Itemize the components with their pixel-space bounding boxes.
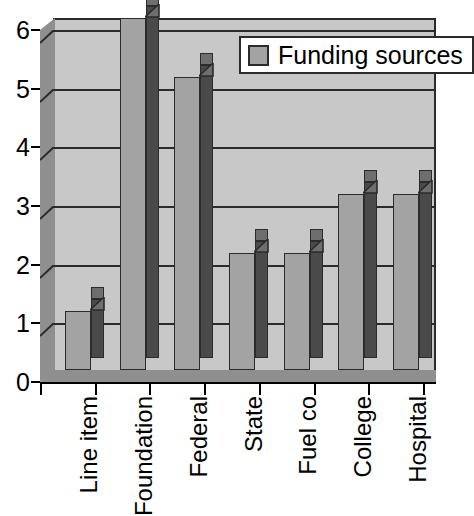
y-axis-tick-mark [31, 264, 40, 266]
bar-hospital[interactable] [393, 194, 419, 370]
bar-front-face [174, 77, 200, 370]
y-axis-tick-label: 5 [16, 76, 30, 101]
y-axis-tick-label: 0 [16, 370, 30, 395]
y-axis-tick-mark [31, 146, 40, 148]
bar-side-face [364, 182, 377, 358]
x-axis-category-label: Federal [187, 396, 211, 477]
bar-side-face [200, 65, 213, 358]
y-axis-tick-label: 4 [16, 135, 30, 160]
bar-fuel-co[interactable] [284, 253, 310, 370]
y-axis-tick-mark [31, 205, 40, 207]
legend-label: Funding sources [278, 42, 463, 68]
x-axis-category-label: Fuel co [296, 396, 320, 475]
bar-top-bevel [363, 180, 378, 194]
bar-line-item[interactable] [65, 311, 91, 370]
x-axis-tick-mark [423, 384, 425, 395]
y-axis-tick-label: 2 [16, 252, 30, 277]
bar-side-face [255, 241, 268, 358]
bar-front-face [284, 253, 310, 370]
bar-college[interactable] [338, 194, 364, 370]
x-axis-labels: Line itemFoundationFederalStateFuel coCo… [40, 396, 436, 510]
y-axis-tick-label: 3 [16, 194, 30, 219]
bar-top-bevel [418, 180, 433, 194]
x-axis-tick-mark [40, 384, 42, 395]
x-axis-category-label: College [351, 396, 375, 477]
bar-top-bevel [145, 4, 160, 18]
x-axis-tick-mark [204, 384, 206, 395]
bar-front-face [229, 253, 255, 370]
bar-front-face [393, 194, 419, 370]
y-axis: 0123456 [0, 0, 40, 510]
y-axis-tick-mark [31, 88, 40, 90]
x-axis-line [40, 382, 436, 384]
x-axis-category-label: Line item [77, 396, 101, 493]
y-axis-tick-mark [31, 29, 40, 31]
x-axis-category-label: Foundation [132, 396, 156, 516]
x-axis-category-label: State [242, 396, 266, 452]
bar-foundation[interactable] [120, 18, 146, 370]
x-axis-category-label: Hospital [406, 396, 430, 483]
bar-front-face [338, 194, 364, 370]
y-axis-tick-label: 1 [16, 311, 30, 336]
bar-top-bevel [309, 239, 324, 253]
bar-top-bevel [90, 297, 105, 311]
y-axis-tick-label: 6 [16, 18, 30, 43]
x-axis-tick-mark [259, 384, 261, 395]
y-axis-tick-mark [31, 322, 40, 324]
bar-side-face [310, 241, 323, 358]
x-axis-tick-mark [314, 384, 316, 395]
x-axis-tick-mark [368, 384, 370, 395]
bar-top-bevel [199, 63, 214, 77]
bar-state[interactable] [229, 253, 255, 370]
legend-swatch-icon [248, 45, 269, 66]
bar-federal[interactable] [174, 77, 200, 370]
bar-front-face [65, 311, 91, 370]
bar-side-face [146, 6, 159, 358]
x-axis-tick-mark [149, 384, 151, 395]
y-axis-tick-mark [31, 381, 40, 383]
bar-front-face [120, 18, 146, 370]
chart-legend[interactable]: Funding sources [239, 36, 474, 74]
bar-top-bevel [254, 239, 269, 253]
x-axis-tick-mark [95, 384, 97, 395]
bar-side-face [419, 182, 432, 358]
